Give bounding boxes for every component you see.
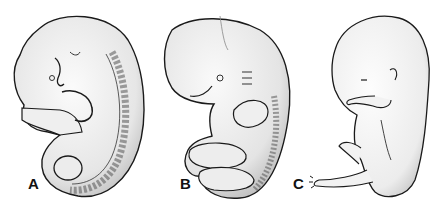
embryo-a-drawing bbox=[0, 0, 150, 206]
panel-b: B bbox=[150, 0, 295, 206]
panel-label-c: C bbox=[293, 176, 304, 191]
embryo-c-drawing bbox=[295, 0, 443, 206]
panel-a: A bbox=[0, 0, 150, 206]
panel-label-b: B bbox=[180, 176, 191, 191]
embryo-b-drawing bbox=[150, 0, 295, 206]
panel-c: C bbox=[295, 0, 443, 206]
panel-label-a: A bbox=[28, 176, 39, 191]
embryo-figure: A B bbox=[0, 0, 443, 206]
